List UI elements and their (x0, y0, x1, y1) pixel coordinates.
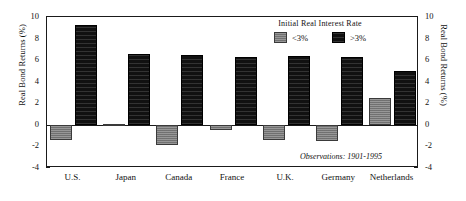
y-tick-label-right: 6 (425, 55, 445, 64)
legend-item: >3% (332, 32, 366, 43)
x-axis-label: Japan (99, 172, 152, 182)
y-tick-mark-left (46, 167, 50, 168)
x-axis-label: Netherlands (365, 172, 418, 182)
y-tick-label-left: 8 (19, 34, 39, 43)
y-tick-label-right: 2 (425, 98, 445, 107)
legend-items: <3%>3% (240, 32, 400, 43)
y-tick-label-left: 0 (19, 120, 39, 129)
bar (210, 125, 232, 130)
bar (316, 125, 338, 141)
y-tick-label-left: -4 (19, 163, 39, 172)
y-axis-title-left: Real Bond Returns (%) (17, 5, 27, 125)
bar (341, 57, 363, 125)
y-tick-label-right: 0 (425, 120, 445, 129)
y-tick-label-left: 2 (19, 98, 39, 107)
legend-swatch-icon (332, 32, 345, 43)
x-axis-label: France (205, 172, 258, 182)
y-tick-mark-right (414, 167, 418, 168)
bar (75, 25, 97, 125)
y-tick-label-right: 8 (425, 34, 445, 43)
observations-annotation: Observations: 1901-1995 (300, 152, 382, 161)
y-tick-label-right: -4 (425, 163, 445, 172)
bar (235, 57, 257, 125)
y-tick-label-left: -2 (19, 141, 39, 150)
bar (156, 125, 178, 145)
x-axis-label: U.K. (259, 172, 312, 182)
y-tick-label-right: 10 (425, 12, 445, 21)
y-tick-label-right: -2 (425, 141, 445, 150)
x-axis-label: Germany (312, 172, 365, 182)
legend-title: Initial Real Interest Rate (240, 19, 400, 28)
y-tick-label-left: 6 (19, 55, 39, 64)
bar (181, 55, 203, 125)
y-tick-label-right: 4 (425, 77, 445, 86)
bar-chart-figure: Real Bond Returns (%) Real Bond Returns … (0, 0, 466, 201)
y-tick-label-left: 10 (19, 12, 39, 21)
bar (128, 54, 150, 125)
legend-swatch-icon (274, 32, 287, 43)
y-axis-title-right: Real Bond Returns (%) (439, 5, 449, 125)
bar (369, 98, 391, 125)
y-tick-label-left: 4 (19, 77, 39, 86)
legend: Initial Real Interest Rate <3%>3% (240, 19, 400, 43)
bar (103, 124, 125, 126)
bar (50, 125, 72, 140)
x-axis-label: Canada (152, 172, 205, 182)
legend-label: <3% (292, 33, 308, 43)
bar (288, 56, 310, 125)
bar (394, 71, 416, 125)
bar (263, 125, 285, 140)
legend-label: >3% (350, 33, 366, 43)
x-axis-label: U.S. (46, 172, 99, 182)
legend-item: <3% (274, 32, 308, 43)
